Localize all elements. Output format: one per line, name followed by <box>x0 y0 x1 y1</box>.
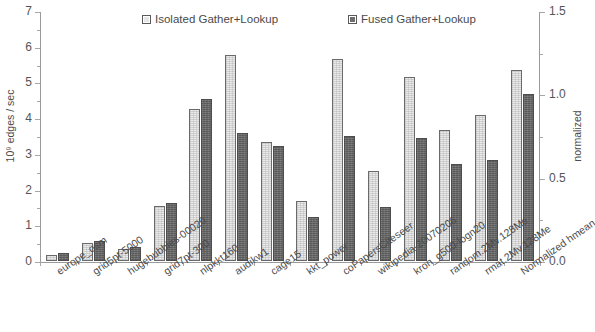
x-axis-category-label: hugebubbles-00020 <box>125 267 132 277</box>
y-minor-tick-mark <box>37 137 40 138</box>
y-minor-tick-mark <box>37 244 40 245</box>
bar-isolated <box>261 142 272 261</box>
y2-tick-mark <box>540 179 545 180</box>
y-tick-mark <box>35 155 40 156</box>
y-tick-label: 4 <box>8 111 32 125</box>
y2-tick-mark <box>540 12 545 13</box>
x-axis-category-label: kkt_power <box>304 267 311 277</box>
x-axis-category-label: nlpkkt160 <box>197 267 204 277</box>
y-tick-label: 1 <box>8 218 32 232</box>
x-axis-labels: europe_osmgrid5pt-5000hugebubbles-00020g… <box>0 265 595 332</box>
x-axis-category-label: cage15 <box>268 267 275 277</box>
y-minor-tick-mark <box>37 30 40 31</box>
y-minor-tick-mark <box>37 66 40 67</box>
bar-fused <box>273 146 284 261</box>
y-tick-mark <box>35 12 40 13</box>
y-tick-mark <box>35 48 40 49</box>
bar-isolated <box>475 115 486 261</box>
y-tick-label: 2 <box>8 183 32 197</box>
bar-fused <box>237 133 248 261</box>
y2-tick-label: 1.0 <box>549 87 579 101</box>
plot-area: 01234567 0.00.51.01.5 <box>40 12 540 262</box>
bar-isolated <box>189 109 200 261</box>
y-tick-mark <box>35 191 40 192</box>
x-axis-category-label: random.2Mv.128Me <box>447 267 454 277</box>
bar-isolated <box>225 55 236 261</box>
x-axis-category-label: wikipedia-20070206 <box>375 267 382 277</box>
y-tick-label: 6 <box>8 40 32 54</box>
x-axis-category-label: kron_g500-logn20 <box>411 267 418 277</box>
x-axis-category-label: grid5pt-5000 <box>90 267 97 277</box>
bar-fused <box>308 217 319 261</box>
y2-minor-tick-mark <box>540 220 543 221</box>
y2-minor-tick-mark <box>540 54 543 55</box>
x-axis-category-label: europe_osm <box>54 267 61 277</box>
x-axis-category-label: audikw1 <box>232 267 239 277</box>
x-axis-category-label: coPapersCiteseer <box>340 267 347 277</box>
y2-tick-label: 0.5 <box>549 171 579 185</box>
x-axis-category-label: grid7pt-300 <box>161 267 168 277</box>
y2-tick-label: 1.5 <box>549 4 579 18</box>
x-axis-category-label: rmat.2Mv.128Me <box>482 267 489 277</box>
y-minor-tick-mark <box>37 101 40 102</box>
y2-tick-mark <box>540 95 545 96</box>
x-axis-category-label: Normalized hmean <box>518 267 525 277</box>
y-tick-mark <box>35 119 40 120</box>
y-tick-label: 3 <box>8 147 32 161</box>
bar-isolated <box>332 59 343 261</box>
y-tick-mark <box>35 83 40 84</box>
y2-minor-tick-mark <box>540 137 543 138</box>
y-axis-line <box>40 12 41 263</box>
y-tick-label: 5 <box>8 75 32 89</box>
y-minor-tick-mark <box>37 208 40 209</box>
bar-chart: Isolated Gather+Lookup Fused Gather+Look… <box>0 0 595 332</box>
y-tick-label: 7 <box>8 4 32 18</box>
bar-isolated <box>46 255 57 261</box>
y-tick-mark <box>35 226 40 227</box>
y-minor-tick-mark <box>37 173 40 174</box>
